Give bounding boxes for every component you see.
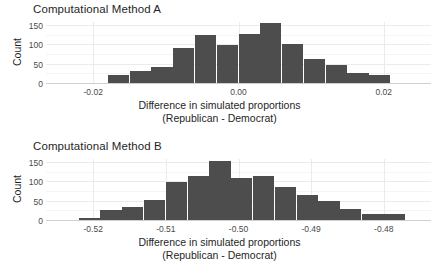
x-axis-line-method-b — [46, 220, 431, 221]
histogram-bar — [151, 67, 172, 84]
x-axis-label-line1-method-b: Difference in simulated proportions — [0, 236, 439, 249]
histogram-bar — [144, 200, 165, 221]
histogram-bar — [260, 23, 281, 84]
y-axis-ticks-method-b: 050100150 — [0, 159, 43, 221]
plot-area-method-b — [46, 159, 431, 221]
histogram-bar — [275, 187, 296, 221]
histogram-bar — [209, 161, 230, 221]
histogram-bar — [195, 35, 216, 84]
y-tick-label: 150 — [3, 21, 43, 31]
x-axis-line-method-a — [46, 83, 431, 84]
histogram-bar — [166, 182, 187, 221]
x-tick-label: -0.49 — [301, 224, 320, 234]
x-tick-label: 0.00 — [230, 87, 247, 97]
panel-title-method-a: Computational Method A — [33, 2, 161, 16]
y-tick-label: 50 — [3, 197, 43, 207]
figure-canvas: Computational Method A Count 050100150 -… — [0, 0, 439, 273]
histogram-bar — [253, 176, 274, 221]
y-tick-label: 0 — [3, 79, 43, 89]
histogram-bar — [318, 201, 339, 221]
x-tick-label: 0.02 — [376, 87, 393, 97]
y-tick-label: 100 — [3, 177, 43, 187]
x-tick-label: -0.48 — [374, 224, 393, 234]
bars-method-a — [46, 22, 431, 84]
histogram-bar — [122, 207, 143, 221]
x-axis-ticks-method-b: -0.52-0.51-0.50-0.49-0.48 — [46, 224, 431, 236]
histogram-bar — [173, 48, 194, 84]
histogram-bar — [297, 195, 318, 221]
y-tick-label: 50 — [3, 60, 43, 70]
y-axis-ticks-method-a: 050100150 — [0, 22, 43, 84]
x-axis-label-line2-method-a: (Republican - Democrat) — [0, 112, 439, 125]
plot-area-method-a — [46, 22, 431, 84]
x-tick-label: -0.52 — [84, 224, 103, 234]
bars-method-b — [46, 159, 431, 221]
x-tick-label: -0.02 — [84, 87, 103, 97]
histogram-bar — [282, 44, 303, 84]
histogram-bar — [326, 65, 347, 84]
x-tick-label: -0.50 — [229, 224, 248, 234]
x-axis-label-line2-method-b: (Republican - Democrat) — [0, 249, 439, 262]
histogram-bar — [217, 45, 238, 84]
panel-method-b: Computational Method B Count 050100150 -… — [0, 137, 439, 273]
y-tick-label: 150 — [3, 158, 43, 168]
y-tick-label: 100 — [3, 40, 43, 50]
histogram-bar — [231, 178, 252, 221]
panel-title-method-b: Computational Method B — [33, 139, 162, 153]
y-tick-label: 0 — [3, 216, 43, 226]
x-axis-label-line1-method-a: Difference in simulated proportions — [0, 99, 439, 112]
x-tick-label: -0.51 — [156, 224, 175, 234]
histogram-bar — [239, 34, 260, 84]
x-axis-ticks-method-a: -0.020.000.02 — [46, 87, 431, 99]
histogram-bar — [188, 176, 209, 221]
panel-method-a: Computational Method A Count 050100150 -… — [0, 0, 439, 136]
histogram-bar — [304, 59, 325, 84]
